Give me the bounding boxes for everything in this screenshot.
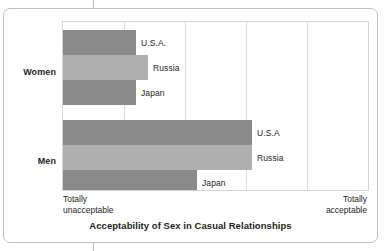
bar-row: Russia [63, 145, 368, 170]
bar-women-russia [63, 55, 148, 80]
bar-row: U.S.A [63, 120, 368, 145]
axis-caption-right-line2: acceptable [326, 205, 367, 215]
bar-label: Japan [141, 88, 165, 98]
bar-men-usa [63, 120, 252, 145]
group-label-women: Women [6, 67, 56, 77]
chart-card: U.S.A.RussiaJapanU.S.ARussiaJapan WomenM… [3, 8, 378, 243]
bar-women-japan [63, 80, 136, 105]
bar-label: Japan [202, 178, 226, 188]
axis-caption-left-line1: Totally [63, 194, 87, 204]
bar-label: Russia [153, 63, 180, 73]
bottom-connector-line [93, 243, 94, 251]
chart-title: Acceptability of Sex in Casual Relations… [4, 220, 377, 231]
bar-label: U.S.A [257, 128, 280, 138]
bar-women-usa [63, 30, 136, 55]
group-label-men: Men [6, 156, 56, 166]
bar-row: Japan [63, 170, 368, 191]
bar-row: Russia [63, 55, 368, 80]
bar-label: Russia [257, 153, 284, 163]
plot-area: U.S.A.RussiaJapanU.S.ARussiaJapan [62, 21, 369, 191]
bar-label: U.S.A. [141, 38, 166, 48]
axis-caption-left: Totallyunacceptable [63, 194, 114, 215]
bar-row: Japan [63, 80, 368, 105]
bar-row: U.S.A. [63, 30, 368, 55]
axis-caption-right: Totallyacceptable [326, 194, 367, 215]
axis-caption-left-line2: unacceptable [63, 205, 114, 215]
bar-men-russia [63, 145, 252, 170]
bar-men-japan [63, 170, 197, 191]
axis-caption-right-line1: Totally [343, 194, 367, 204]
